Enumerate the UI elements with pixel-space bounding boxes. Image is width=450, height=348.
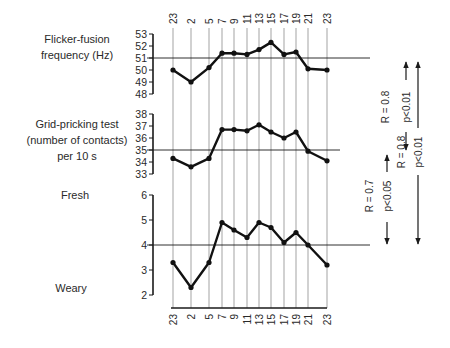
data-point (231, 227, 236, 232)
y-tick-label: 34 (135, 156, 147, 168)
data-point (293, 129, 298, 134)
data-point (188, 79, 193, 84)
data-point (324, 262, 329, 267)
data-point (170, 67, 175, 72)
x-tick-label-top: 15 (266, 12, 277, 24)
x-tick-label-bottom: 23 (322, 314, 333, 326)
grid-title-line2: (number of contacts) (27, 134, 128, 146)
vertical-grid-lines (173, 28, 327, 308)
y-tick-label: 5 (141, 214, 147, 226)
x-tick-label-top: 7 (217, 18, 228, 24)
data-point (281, 240, 286, 245)
x-tick-label-bottom: 13 (254, 314, 265, 326)
data-point (231, 127, 236, 132)
x-tick-label-top: 21 (303, 12, 314, 24)
data-point (281, 135, 286, 140)
data-point (305, 149, 310, 154)
series-line-grid-pricking (173, 125, 327, 167)
flicker-title-line1: Flicker-fusion (44, 33, 109, 45)
annotation-3-p: p<0.01 (413, 136, 424, 167)
data-point (219, 220, 224, 225)
annotation-1-p: p<0.01 (401, 91, 412, 122)
chart-figure: Flicker-fusion frequency (Hz) Grid-prick… (0, 0, 450, 348)
y-axes: 53525150494838373635343365432 (135, 28, 153, 301)
data-point (219, 127, 224, 132)
annotation-2-r: R = 0.7 (364, 179, 375, 212)
y-tick-label: 51 (135, 52, 147, 64)
data-point (219, 51, 224, 56)
x-tick-label-bottom: 19 (291, 314, 302, 326)
x-tick-label-top: 2 (186, 18, 197, 24)
y-tick-label: 37 (135, 120, 147, 132)
data-point (268, 225, 273, 230)
y-tick-label: 49 (135, 76, 147, 88)
data-point (244, 235, 249, 240)
x-tick-label-bottom: 2 (186, 314, 197, 320)
fresh-label: Fresh (61, 189, 89, 201)
annotation-3-r: R = 0.8 (396, 135, 407, 168)
x-axis-top-labels: 23257911131517192123 (168, 12, 333, 24)
flicker-title-line2: frequency (Hz) (41, 49, 113, 61)
data-point (231, 51, 236, 56)
data-point (188, 164, 193, 169)
grid-title-line1: Grid-pricking test (35, 118, 118, 130)
data-point (324, 158, 329, 163)
data-point (244, 52, 249, 57)
y-tick-label: 6 (141, 189, 147, 201)
y-tick-label: 33 (135, 168, 147, 180)
y-tick-label: 50 (135, 64, 147, 76)
x-tick-label-top: 11 (242, 13, 253, 24)
data-point (170, 156, 175, 161)
x-tick-label-bottom: 9 (229, 314, 240, 320)
x-tick-label-bottom: 21 (303, 314, 314, 326)
x-tick-label-top: 17 (279, 12, 290, 24)
x-axis-bottom-labels: 23257911131517192123 (168, 314, 333, 326)
x-tick-label-top: 23 (168, 12, 179, 24)
series-line-flicker (173, 42, 327, 82)
y-tick-label: 38 (135, 108, 147, 120)
annotation-grid-fresh: R = 0.7 p<0.05 (364, 155, 393, 244)
y-tick-label: 36 (135, 132, 147, 144)
x-tick-label-top: 5 (204, 18, 215, 24)
data-point (305, 66, 310, 71)
data-point (206, 260, 211, 265)
x-tick-label-bottom: 15 (266, 314, 277, 326)
data-point (206, 65, 211, 70)
annotation-flicker-fresh: R = 0.8 p<0.01 (396, 62, 424, 244)
y-tick-label: 48 (135, 88, 147, 100)
grid-title-line3: per 10 s (57, 150, 97, 162)
data-point (293, 49, 298, 54)
x-tick-label-bottom: 23 (168, 314, 179, 326)
y-tick-label: 3 (141, 264, 147, 276)
x-tick-label-top: 23 (322, 12, 333, 24)
data-point (206, 156, 211, 161)
data-series (170, 40, 329, 290)
data-point (268, 129, 273, 134)
data-point (256, 47, 261, 52)
data-point (188, 285, 193, 290)
x-tick-label-bottom: 5 (204, 314, 215, 320)
data-point (268, 40, 273, 45)
data-point (305, 242, 310, 247)
data-point (281, 52, 286, 57)
y-tick-label: 2 (141, 289, 147, 301)
reference-lines (147, 58, 370, 245)
x-tick-label-bottom: 7 (217, 314, 228, 320)
data-point (324, 67, 329, 72)
x-tick-label-bottom: 11 (242, 314, 253, 325)
data-point (293, 230, 298, 235)
y-tick-label: 35 (135, 144, 147, 156)
data-point (256, 220, 261, 225)
weary-label: Weary (55, 282, 87, 294)
data-point (170, 260, 175, 265)
x-tick-label-top: 9 (229, 18, 240, 24)
annotation-2-p: p<0.05 (382, 180, 393, 211)
x-tick-label-top: 19 (291, 12, 302, 24)
series-line-fresh-weary (173, 223, 327, 288)
annotation-1-r: R = 0.8 (380, 90, 391, 123)
x-tick-label-top: 13 (254, 12, 265, 24)
x-tick-label-bottom: 17 (279, 314, 290, 326)
y-tick-label: 4 (141, 239, 147, 251)
data-point (244, 128, 249, 133)
data-point (256, 122, 261, 127)
